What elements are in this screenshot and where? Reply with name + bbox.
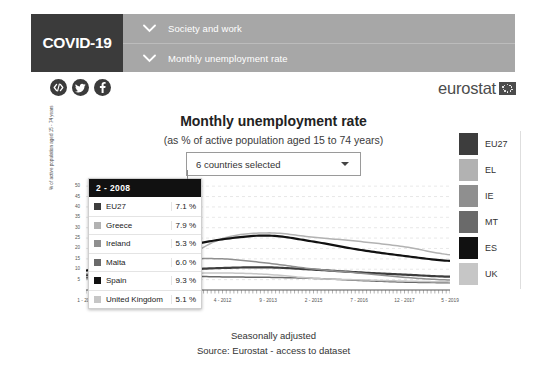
nav-item-label: Society and work	[168, 23, 242, 34]
y-axis-tick-label: 35	[60, 214, 80, 219]
chart-footer: Seasonally adjusted Source: Eurostat - a…	[0, 330, 547, 356]
legend-color-swatch	[459, 159, 478, 181]
y-axis-title: % of active population aged 15 - 74 year…	[49, 78, 54, 190]
legend-label: UK	[485, 269, 498, 279]
tooltip-row: Ireland5.3 %	[89, 234, 201, 253]
legend-label: EL	[485, 165, 496, 175]
tooltip-row: Spain9.3 %	[89, 271, 201, 290]
social-share-bar	[50, 79, 111, 96]
tooltip-series-value: 5.1 %	[171, 295, 196, 304]
legend-item-ie[interactable]: IE	[459, 183, 529, 209]
legend-color-swatch	[459, 263, 478, 285]
series-color-swatch	[94, 240, 101, 247]
chart-title: Monthly unemployment rate	[0, 113, 547, 129]
chevron-down-icon	[136, 54, 162, 63]
tooltip-series-name: EU27	[106, 202, 168, 211]
y-axis-tick-label: 15	[60, 256, 80, 261]
y-axis-tick-label: 45	[60, 194, 80, 199]
x-axis-tick-label: 2 - 2015	[305, 298, 323, 303]
tooltip-row: EU277.1 %	[89, 197, 201, 216]
tooltip-series-name: Greece	[106, 221, 168, 230]
legend-color-swatch	[459, 211, 478, 233]
x-axis-tick-label: 9 - 2013	[259, 298, 277, 303]
legend-item-eu27[interactable]: EU27	[459, 131, 529, 157]
tooltip-series-value: 7.9 %	[171, 221, 196, 230]
legend-color-swatch	[459, 133, 478, 155]
legend-color-swatch	[459, 237, 478, 259]
legend-item-es[interactable]: ES	[459, 235, 529, 261]
tooltip-series-name: United Kingdom	[106, 295, 168, 304]
y-axis-tick-label: 20	[60, 245, 80, 250]
legend-label: IE	[485, 191, 494, 201]
tooltip-row: United Kingdom5.1 %	[89, 290, 201, 309]
y-axis-tick-label: 30	[60, 225, 80, 230]
chart-legend: EU27ELIEMTESUK	[459, 131, 529, 287]
tooltip-series-name: Ireland	[106, 239, 168, 248]
x-axis-tick-label: 7 - 2016	[350, 298, 368, 303]
chevron-down-icon	[341, 162, 349, 166]
y-axis-tick-label: 40	[60, 204, 80, 209]
legend-item-uk[interactable]: UK	[459, 261, 529, 287]
footer-source: Source: Eurostat - access to dataset	[0, 345, 547, 356]
tooltip-series-value: 6.0 %	[171, 258, 196, 267]
tooltip-series-value: 9.3 %	[171, 276, 196, 285]
y-axis-tick-label: 10	[60, 266, 80, 271]
covid19-badge-label: COVID-19	[42, 34, 111, 52]
nav-item-society-and-work[interactable]: Society and work	[123, 14, 515, 43]
legend-item-el[interactable]: EL	[459, 157, 529, 183]
x-axis-tick-label: 5 - 2019	[441, 298, 459, 303]
tooltip-series-value: 7.1 %	[171, 202, 196, 211]
tooltip-row: Greece7.9 %	[89, 216, 201, 235]
series-color-swatch	[94, 203, 101, 210]
chevron-down-icon	[136, 24, 162, 33]
series-color-swatch	[94, 222, 101, 229]
eurostat-wordmark: eurostat	[438, 79, 496, 98]
country-select-value: 6 countries selected	[196, 159, 341, 170]
series-color-swatch	[94, 296, 101, 303]
eu-flag-icon	[499, 82, 516, 95]
tooltip-rows: EU277.1 %Greece7.9 %Ireland5.3 %Malta6.0…	[89, 197, 201, 308]
tooltip-series-value: 5.3 %	[171, 239, 196, 248]
tooltip-series-name: Spain	[106, 276, 168, 285]
nav-item-monthly-unemployment-rate[interactable]: Monthly unemployment rate	[123, 43, 515, 73]
y-axis-tick-label: 25	[60, 235, 80, 240]
eurostat-logo: eurostat	[438, 79, 516, 98]
legend-label: EU27	[485, 139, 508, 149]
country-select-dropdown[interactable]: 6 countries selected	[186, 152, 361, 176]
footer-source-link[interactable]: - access to dataset	[270, 345, 350, 356]
tooltip-period: 2 - 2008	[89, 179, 201, 197]
y-axis-tick-label: 5	[60, 277, 80, 282]
legend-color-swatch	[459, 185, 478, 207]
legend-label: MT	[485, 217, 498, 227]
tooltip-row: Malta6.0 %	[89, 253, 201, 272]
twitter-icon[interactable]	[72, 79, 89, 96]
page-header: COVID-19 Society and work Monthly unempl…	[0, 0, 547, 70]
legend-item-mt[interactable]: MT	[459, 209, 529, 235]
x-axis-tick-label: 12 - 2017	[394, 298, 414, 303]
tooltip-pointer	[187, 170, 188, 179]
footer-note: Seasonally adjusted	[0, 330, 547, 341]
chart-tooltip: 2 - 2008 EU277.1 %Greece7.9 %Ireland5.3 …	[88, 178, 202, 309]
legend-label: ES	[485, 243, 497, 253]
nav-item-label: Monthly unemployment rate	[168, 53, 288, 64]
series-color-swatch	[94, 277, 101, 284]
x-axis-tick-label: 4 - 2012	[214, 298, 232, 303]
covid19-badge: COVID-19	[31, 14, 123, 72]
y-axis-tick-label: 50	[60, 183, 80, 188]
tooltip-series-name: Malta	[106, 258, 168, 267]
series-color-swatch	[94, 259, 101, 266]
footer-source-prefix: Source: Eurostat	[197, 345, 268, 356]
facebook-icon[interactable]	[94, 79, 111, 96]
